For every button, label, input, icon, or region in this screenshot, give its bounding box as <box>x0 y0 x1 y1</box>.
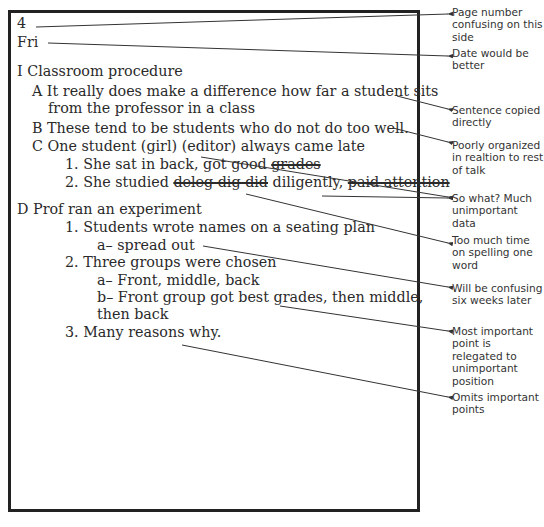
leader-omits <box>182 345 448 397</box>
leader-sentence <box>397 96 448 109</box>
leader-so-what-1 <box>201 157 448 197</box>
leader-page-number <box>36 14 448 27</box>
leader-date <box>48 43 448 56</box>
leader-spelling <box>246 194 448 243</box>
leader-spread-out <box>203 246 448 287</box>
leader-important-point <box>280 306 448 331</box>
leader-poorly-organized <box>393 128 448 142</box>
leader-so-what-2 <box>322 196 448 198</box>
